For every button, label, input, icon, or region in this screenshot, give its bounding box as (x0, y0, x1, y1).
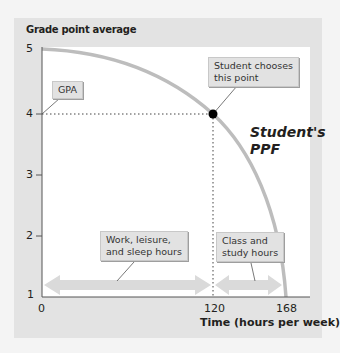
y-tick-4: 4 (26, 107, 33, 120)
y-axis-title: Grade point average (26, 24, 136, 35)
class-leader (251, 263, 255, 281)
work-line-2: and sleep hours (106, 246, 182, 258)
work-leader (117, 262, 134, 281)
x-axis-title: Time (hours per week) (200, 316, 340, 329)
work-line-1: Work, leisure, (106, 234, 182, 246)
ppf-label: Student's PPF (250, 124, 326, 158)
ppf-label-line-1: Student's (250, 124, 326, 141)
x-tick-0: 0 (38, 302, 45, 315)
y-tick-5: 5 (26, 42, 33, 55)
gpa-callout-text: GPA (58, 84, 77, 96)
work-hours-callout: Work, leisure, and sleep hours (100, 231, 188, 261)
gpa-callout: GPA (52, 81, 83, 99)
gpa-leader (42, 98, 60, 114)
y-tick-1: 1 (27, 288, 34, 301)
y-ticks (36, 114, 42, 236)
y-tick-2: 2 (26, 229, 33, 242)
work-hours-arrow (44, 275, 211, 295)
ppf-label-line-2: PPF (250, 141, 326, 158)
class-line-1: Class and (222, 235, 278, 247)
choose-leader (213, 86, 237, 114)
class-hours-callout: Class and study hours (216, 232, 284, 262)
choose-line-2: this point (214, 72, 293, 84)
class-hours-arrow (215, 275, 282, 295)
y-tick-3: 3 (26, 168, 33, 181)
choose-line-1: Student chooses (214, 60, 293, 72)
x-tick-120: 120 (204, 302, 225, 315)
class-line-2: study hours (222, 247, 278, 259)
x-tick-168: 168 (276, 302, 297, 315)
choose-point-callout: Student chooses this point (208, 57, 299, 87)
chosen-point (209, 110, 218, 119)
